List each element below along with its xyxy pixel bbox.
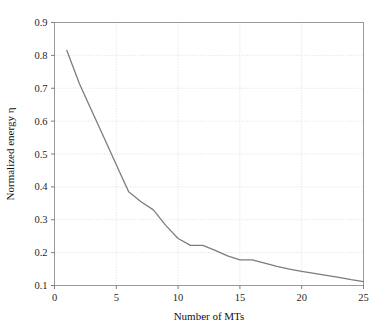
x-tick-label: 20 — [296, 292, 307, 303]
y-tick-label: 0.9 — [34, 17, 47, 28]
y-tick-label: 0.8 — [34, 50, 47, 61]
y-tick-label: 0.2 — [34, 247, 47, 258]
y-tick-label: 0.1 — [34, 280, 47, 291]
y-tick-label: 0.7 — [34, 83, 47, 94]
y-tick-label: 0.6 — [34, 116, 47, 127]
x-tick-label: 25 — [358, 292, 369, 303]
x-tick-label: 15 — [235, 292, 246, 303]
x-tick-label: 10 — [173, 292, 184, 303]
line-chart: 0510152025 0.10.20.30.40.50.60.70.80.9 N… — [0, 0, 384, 329]
y-axis-tick-labels: 0.10.20.30.40.50.60.70.80.9 — [34, 17, 48, 291]
x-axis-title: Number of MTs — [174, 310, 245, 322]
y-tick-label: 0.4 — [34, 181, 48, 192]
y-axis-title: Normalized energy η — [4, 107, 16, 200]
y-tick-label: 0.5 — [34, 149, 47, 160]
x-tick-label: 0 — [52, 292, 57, 303]
chart-background — [0, 0, 384, 329]
y-tick-label: 0.3 — [34, 214, 47, 225]
chart-figure: 0510152025 0.10.20.30.40.50.60.70.80.9 N… — [0, 0, 384, 329]
x-tick-label: 5 — [114, 292, 119, 303]
